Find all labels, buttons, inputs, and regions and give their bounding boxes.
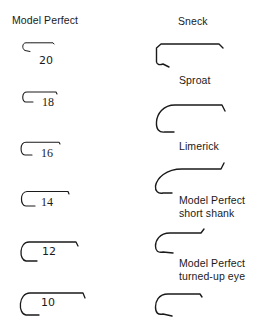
model-perfect-title: Model Perfect [12,14,78,27]
size-label-16: 16 [41,147,53,159]
short-shank-label-line1: Model Perfect [179,194,245,207]
limerick-label: Limerick [179,140,219,153]
size-label-20: 20 [39,55,53,67]
size-label-14: 14 [41,196,53,208]
size-label-18: 18 [42,96,54,108]
hook-limerick-icon [154,160,226,198]
turned-up-eye-label-line1: Model Perfect [179,257,245,270]
hook-model-perfect-turned-up-eye-icon [154,291,204,321]
sneck-label: Sneck [178,15,208,28]
hook-sneck-icon [155,42,225,70]
hook-model-perfect-short-shank-icon [154,227,206,257]
sproat-label: Sproat [179,74,211,87]
size-label-12: 12 [42,246,56,258]
short-shank-label-line2: short shank [179,207,234,220]
hook-sproat-icon [155,102,227,136]
turned-up-eye-label-line2: turned-up eye [179,270,245,283]
size-label-10: 10 [41,297,55,309]
